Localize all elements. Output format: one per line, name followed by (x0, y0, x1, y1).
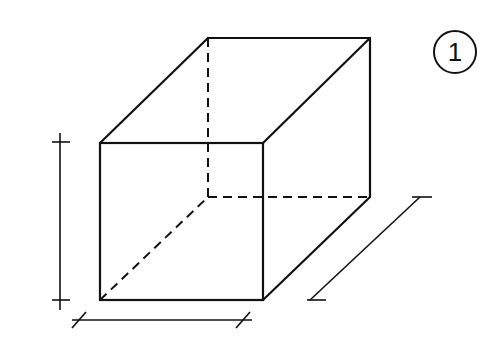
box-diagram (0, 0, 493, 357)
figure-number: 1 (433, 30, 477, 74)
dimension-lines (52, 133, 432, 328)
